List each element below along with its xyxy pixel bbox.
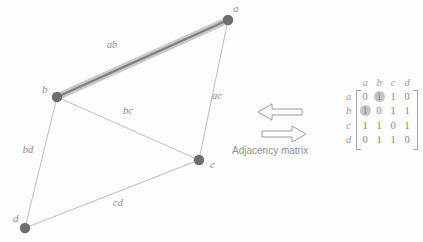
matrix-cell-a-b: 1	[372, 89, 386, 104]
adjacency-matrix: a b c d a 0 1	[343, 76, 414, 147]
matrix-row: b 1 0 1 1	[343, 104, 414, 119]
matrix-cell-value: 0	[404, 91, 409, 102]
edge-cd	[25, 160, 199, 228]
matrix-header-row: a b c d	[343, 76, 414, 89]
matrix-cell-value: 0	[376, 105, 381, 116]
node-b	[52, 92, 62, 102]
matrix-cell-value: 1	[390, 105, 395, 116]
graph-nodes	[20, 15, 233, 233]
matrix-cell-b-d: 1	[400, 104, 414, 119]
matrix-cell-c-b: 1	[372, 118, 386, 133]
matrix-cell-value: 1	[376, 134, 381, 145]
matrix-table: a b c d a 0 1	[343, 76, 414, 147]
matrix-cell-b-c: 1	[386, 104, 400, 119]
edge-label-ab: ab	[107, 39, 118, 50]
matrix-rowhead-b: b	[343, 104, 358, 119]
matrix-cell-value: 1	[390, 91, 395, 102]
node-label-d: d	[13, 212, 19, 224]
matrix-cell-c-a: 1	[358, 118, 372, 133]
matrix-colhead-d: d	[400, 76, 414, 89]
matrix-cell-value: 1	[362, 105, 367, 116]
edge-label-ac: ac	[212, 90, 222, 101]
matrix-cell-b-b: 0	[372, 104, 386, 119]
matrix-cell-d-b: 1	[372, 133, 386, 148]
matrix-cell-value: 1	[390, 134, 395, 145]
matrix-colhead-c: c	[386, 76, 400, 89]
matrix-cell-d-d: 0	[400, 133, 414, 148]
matrix-row: c 1 1 0 1	[343, 118, 414, 133]
matrix-cell-c-d: 1	[400, 118, 414, 133]
edge-bd	[25, 97, 57, 228]
matrix-cell-a-d: 0	[400, 89, 414, 104]
matrix-cell-a-c: 1	[386, 89, 400, 104]
arrow-right-icon	[262, 126, 306, 142]
matrix-cell-b-a: 1	[358, 104, 372, 119]
node-label-a: a	[233, 2, 239, 14]
node-c	[194, 155, 204, 165]
node-d	[20, 223, 30, 233]
matrix-cell-value: 0	[362, 91, 367, 102]
matrix-rowhead-a: a	[343, 89, 358, 104]
matrix-cell-value: 0	[404, 134, 409, 145]
graph-edges	[25, 20, 228, 228]
edge-label-bc: bc	[123, 105, 133, 116]
node-label-c: c	[210, 158, 215, 170]
graph-adjacency-matrix-figure: a b c d ab ac bc bd cd Adjacency matrix	[0, 0, 423, 242]
matrix-cell-d-a: 0	[358, 133, 372, 148]
matrix-cell-value: 1	[404, 120, 409, 131]
matrix-cell-d-c: 1	[386, 133, 400, 148]
matrix-row: a 0 1 1 0	[343, 89, 414, 104]
matrix-colhead-b: b	[372, 76, 386, 89]
matrix-cell-a-a: 0	[358, 89, 372, 104]
matrix-rowhead-d: d	[343, 133, 358, 148]
matrix-cell-value: 1	[404, 105, 409, 116]
matrix-cell-value: 0	[390, 120, 395, 131]
matrix-rowhead-c: c	[343, 118, 358, 133]
edge-label-bd: bd	[23, 144, 34, 155]
matrix-row: d 0 1 1 0	[343, 133, 414, 148]
matrix-cell-value: 1	[376, 120, 381, 131]
matrix-cell-value: 1	[362, 120, 367, 131]
matrix-cell-value: 0	[362, 134, 367, 145]
edge-ab-highlighted	[57, 20, 228, 97]
arrow-left-icon	[258, 104, 302, 120]
adjacency-matrix-caption: Adjacency matrix	[232, 145, 308, 156]
matrix-colhead-a: a	[358, 76, 372, 89]
matrix-cell-c-c: 0	[386, 118, 400, 133]
matrix-cell-value: 1	[376, 91, 381, 102]
arrow-pair	[256, 102, 308, 146]
matrix-corner	[343, 76, 358, 89]
node-a	[223, 15, 233, 25]
node-label-b: b	[42, 83, 48, 95]
edge-label-cd: cd	[113, 197, 124, 208]
edge-ab-core	[57, 20, 228, 97]
